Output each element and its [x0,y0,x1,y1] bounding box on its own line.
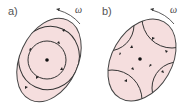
omega-label-b: ω [170,4,177,15]
ellipse-b [94,7,183,106]
omega-label-a: ω [75,4,82,15]
ellipse-a [4,8,94,106]
panel-label-a: a) [8,5,18,17]
panel-b [82,0,183,106]
panel-label-b: b) [102,5,112,17]
center-point-a [45,58,49,62]
panel-a [4,8,94,106]
center-point-b [138,57,142,61]
diagram-canvas [0,0,183,106]
